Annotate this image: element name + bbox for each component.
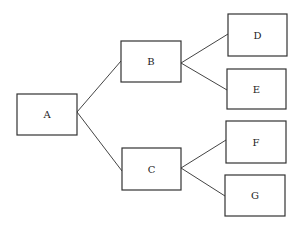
edge-a-b xyxy=(77,61,121,112)
node-e: E xyxy=(227,69,286,109)
edge-b-e xyxy=(181,63,227,90)
edge-b-d xyxy=(181,34,228,63)
node-d: D xyxy=(228,14,287,56)
nodes-group: ABCDEFG xyxy=(17,14,287,216)
node-label-d: D xyxy=(253,30,261,41)
node-label-c: C xyxy=(148,164,156,175)
tree-diagram: ABCDEFG xyxy=(0,0,300,225)
edge-c-f xyxy=(181,140,226,168)
node-g: G xyxy=(225,175,285,216)
node-label-g: G xyxy=(251,190,259,201)
node-b: B xyxy=(121,41,181,82)
node-f: F xyxy=(226,121,286,163)
node-label-f: F xyxy=(253,137,260,148)
node-label-a: A xyxy=(42,109,51,120)
node-c: C xyxy=(122,148,181,190)
node-a: A xyxy=(17,94,77,135)
node-label-b: B xyxy=(147,56,154,67)
node-label-e: E xyxy=(253,84,260,95)
edge-a-c xyxy=(77,112,122,171)
edge-c-g xyxy=(181,168,225,196)
